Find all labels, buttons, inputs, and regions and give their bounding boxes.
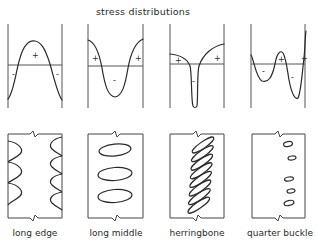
sign-minus-center: -	[113, 76, 116, 85]
buckle-oval	[98, 142, 131, 157]
edge-wave-right	[50, 137, 62, 210]
label-long-edge: long edge	[13, 228, 58, 238]
buckle-oval	[98, 166, 133, 181]
buckle-sheet-long-edge	[8, 131, 62, 221]
sign-plus-left: +	[175, 56, 182, 65]
sign-plus-center: +	[32, 51, 39, 60]
label-long-middle: long middle	[89, 228, 142, 238]
sign-plus-1: +	[278, 55, 285, 64]
sign-minus-2: -	[291, 73, 294, 82]
sheet-outline	[8, 131, 62, 221]
buckle-sheet-herringbone	[170, 131, 224, 221]
sign-plus-right: +	[214, 54, 221, 63]
sheet-outline	[170, 131, 224, 221]
sign-plus-2: +	[301, 54, 308, 63]
edge-wave-left	[8, 141, 22, 205]
label-quarter-buckle: quarter buckle	[247, 228, 313, 238]
sign-plus-left: +	[92, 54, 99, 63]
panel-long-middle: + - + long middle	[88, 24, 143, 238]
buckle-sheet-quarter-buckle	[252, 131, 305, 221]
stress-graph-long-edge: - + -	[8, 24, 62, 108]
buckle-oval	[284, 176, 293, 181]
stress-graph-quarter-buckle: - + - +	[251, 24, 308, 108]
label-herringbone: herringbone	[170, 228, 225, 238]
panel-long-edge: - + - long edge	[8, 24, 62, 238]
buckle-oval	[287, 188, 295, 193]
sign-minus-center: -	[192, 77, 195, 86]
buckle-oval	[284, 200, 295, 207]
panel-quarter-buckle: - + - + quarter buckle	[247, 24, 313, 238]
stress-graph-long-middle: + - +	[88, 24, 143, 108]
stress-graph-herringbone: + - +	[170, 24, 224, 108]
sign-minus-left: -	[12, 70, 15, 79]
figure-title: stress distributions	[96, 6, 190, 17]
sign-plus-right: +	[135, 54, 142, 63]
sheet-outline	[252, 131, 305, 221]
sign-minus-1: -	[262, 67, 265, 76]
panel-herringbone: + - + herringbone	[170, 24, 225, 238]
buckle-oval	[98, 188, 133, 203]
stress-distribution-figure: stress distributions - + - long edge + -	[0, 0, 316, 245]
stress-curve	[88, 39, 143, 97]
stress-curve	[8, 41, 62, 100]
stress-curve	[251, 31, 306, 98]
buckle-oval	[283, 141, 293, 148]
buckle-sheet-long-middle	[88, 131, 143, 221]
sign-minus-right: -	[56, 70, 59, 79]
buckle-oval	[288, 155, 296, 160]
herringbone-ovals	[186, 135, 215, 215]
